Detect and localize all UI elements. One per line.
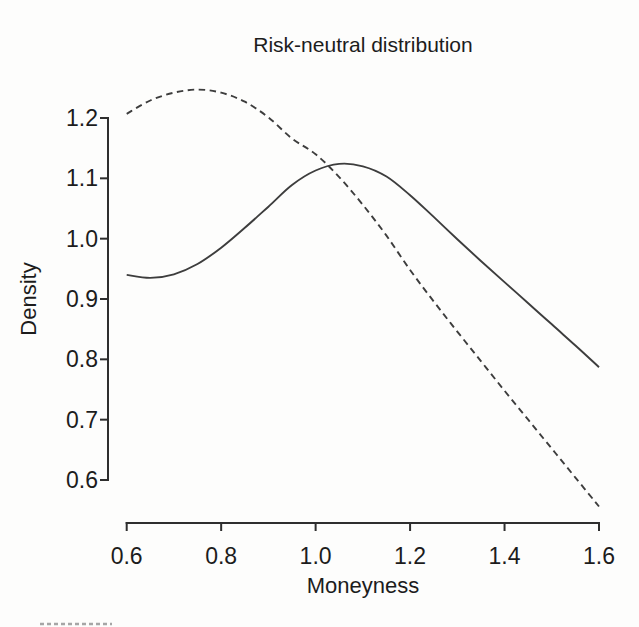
plot-area [0,0,639,627]
x-tick-label: 1.4 [475,544,535,568]
figure-risk-neutral-distribution: Risk-neutral distribution Density Moneyn… [0,0,639,627]
y-tick-label: 0.9 [38,287,98,311]
density-curve-solid [127,164,599,368]
x-tick-label: 1.0 [286,544,346,568]
density-curve-dashed [127,90,599,507]
y-tick-label: 0.6 [38,468,98,492]
y-tick-label: 1.0 [38,227,98,251]
y-tick-label: 0.7 [38,408,98,432]
x-tick-label: 1.2 [380,544,440,568]
x-tick-label: 1.6 [569,544,629,568]
y-tick-label: 1.1 [38,166,98,190]
y-tick-label: 1.2 [38,106,98,130]
y-tick-label: 0.8 [38,347,98,371]
x-tick-label: 0.8 [191,544,251,568]
x-tick-label: 0.6 [97,544,157,568]
